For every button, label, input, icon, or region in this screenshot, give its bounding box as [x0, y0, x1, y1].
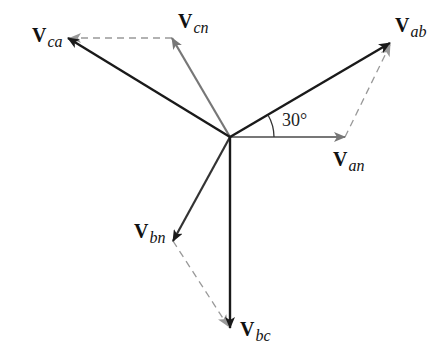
label-vca: Vca — [32, 24, 63, 47]
dashed-vbn-to-vbc — [173, 241, 228, 326]
phasor-vbn — [173, 137, 230, 241]
angle-arc — [268, 115, 274, 137]
label-vbc: Vbc — [240, 318, 271, 341]
dashed-van-to-vab — [345, 45, 390, 137]
phasor-vca — [68, 38, 230, 137]
phasor-vab — [230, 43, 390, 137]
angle-label: 30° — [282, 110, 307, 131]
label-vab: Vab — [395, 14, 426, 37]
label-vcn: Vcn — [178, 10, 209, 33]
phasor-diagram — [0, 0, 447, 362]
phasor-vcn — [172, 38, 230, 137]
label-van: Van — [333, 148, 364, 171]
label-vbn: Vbn — [134, 220, 165, 243]
